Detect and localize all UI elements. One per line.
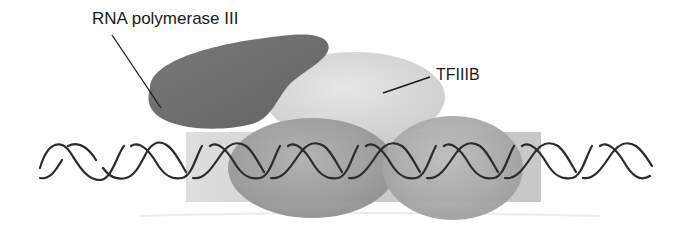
ground-shadow: [140, 213, 600, 216]
diagram-canvas: RNA polymerase III TFIIIB: [0, 0, 682, 235]
tfiiic-right-shape: [383, 116, 523, 220]
pol-iii-leader-line: [112, 35, 161, 108]
diagram-svg: [0, 0, 682, 235]
tfiiib-label: TFIIIB: [436, 66, 480, 84]
tfiiic-left-shape: [228, 118, 396, 218]
rna-pol-iii-label: RNA polymerase III: [92, 9, 238, 29]
